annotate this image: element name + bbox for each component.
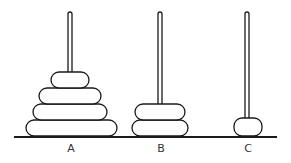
peg-a-label: A <box>67 142 75 155</box>
peg-c-label: C <box>244 142 252 155</box>
tower-of-hanoi-diagram <box>0 0 291 163</box>
peg-a-disc-2 <box>39 88 101 104</box>
peg-a-disc-4 <box>26 120 117 136</box>
peg-b-label: B <box>157 142 165 155</box>
peg-a-rod <box>68 12 72 74</box>
peg-c-rod <box>245 12 249 120</box>
peg-c-disc-1 <box>234 118 262 136</box>
peg-a-disc-1 <box>51 72 89 88</box>
peg-b-disc-2 <box>132 120 188 136</box>
peg-a-disc-3 <box>33 104 107 120</box>
peg-b-disc-1 <box>135 104 185 120</box>
peg-b-rod <box>158 12 162 106</box>
